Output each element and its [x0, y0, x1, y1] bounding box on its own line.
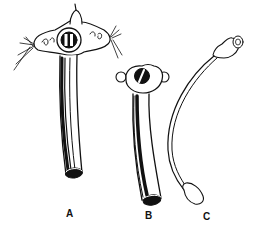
label-a: A: [66, 208, 73, 219]
diagram-figure: A B C: [0, 0, 259, 231]
label-b: B: [145, 210, 152, 221]
part-a-outer-tube: [14, 4, 122, 179]
part-b-inner-cannula: [116, 65, 169, 207]
illustration: [0, 0, 259, 231]
part-c-obturator: [168, 36, 243, 204]
label-c: C: [203, 211, 210, 222]
